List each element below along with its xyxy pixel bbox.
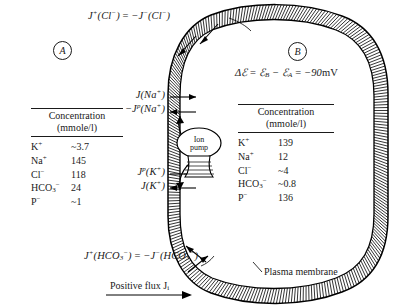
ion-species: Na+ (31, 155, 71, 167)
ion-species: HCO3− (31, 182, 71, 194)
compartment-a-label: A (59, 45, 65, 56)
bicarbonate-flux-equation: J+(HCO3−) = −J−(HCO3−) (84, 250, 198, 261)
ion-concentration-value: ~3.7 (71, 141, 89, 153)
compartment-b-label: B (294, 46, 300, 57)
ion-concentration-value: 139 (278, 137, 293, 149)
ion-species: K+ (31, 141, 71, 153)
ion-species: P− (238, 192, 278, 204)
ion-concentration-value: ~0.8 (278, 178, 296, 190)
table-b-header-line2: (mmole/l) (242, 118, 330, 130)
table-row: Na+145 (31, 155, 123, 167)
ion-concentration-value: 12 (278, 151, 288, 163)
ion-pump-label: Ion pump (183, 136, 215, 153)
table-b-header-line1: Concentration (242, 106, 330, 118)
table-row: Cl−118 (31, 169, 123, 181)
positive-flux-subscript: i (167, 284, 169, 292)
ion-concentration-value: ~4 (278, 165, 288, 177)
ion-species: Na+ (238, 151, 278, 163)
table-row: Cl−~4 (238, 165, 334, 177)
table-b-header: Concentration (mmole/l) (238, 104, 334, 133)
table-a-header-line1: Concentration (35, 110, 119, 122)
ion-species: Cl− (238, 165, 278, 177)
positive-flux-text: Positive flux J (110, 280, 167, 291)
sodium-passive-flux-label: J(Na+) (117, 89, 165, 100)
concentration-table-b: Concentration (mmole/l) K+139Na+12Cl−~4H… (238, 104, 334, 206)
ion-pump-label-line2: pump (190, 143, 208, 152)
table-row: P−~1 (31, 196, 123, 208)
membrane-potential-equation: Δℰ = ℰB − ℰA = −90mV (235, 66, 338, 78)
ion-species: Cl− (31, 169, 71, 181)
ion-concentration-value: 24 (71, 182, 81, 194)
chloride-flux-equation: J+(Cl−) = −J−(Cl−) (88, 10, 170, 21)
compartment-a-marker: A (53, 41, 72, 60)
concentration-table-a: Concentration (mmole/l) K+~3.7Na+145Cl−1… (31, 108, 123, 210)
table-row: HCO3−24 (31, 182, 123, 194)
ion-species: HCO3− (238, 178, 278, 190)
ion-concentration-value: 145 (71, 155, 86, 167)
table-b-rows: K+139Na+12Cl−~4HCO3−~0.8P−136 (238, 137, 334, 204)
table-row: HCO3−~0.8 (238, 178, 334, 190)
ion-species: K+ (238, 137, 278, 149)
ion-concentration-value: 118 (71, 169, 86, 181)
table-row: K+~3.7 (31, 141, 123, 153)
table-a-rows: K+~3.7Na+145Cl−118HCO3−24P−~1 (31, 141, 123, 208)
positive-flux-label: Positive flux Ji (110, 280, 169, 291)
table-row: Na+12 (238, 151, 334, 163)
ion-species: P− (31, 196, 71, 208)
table-a-header: Concentration (mmole/l) (31, 108, 123, 137)
table-a-header-line2: (mmole/l) (35, 122, 119, 134)
positive-flux-arrow (106, 291, 192, 299)
table-row: P−136 (238, 192, 334, 204)
plasma-membrane-label: Plasma membrane (264, 266, 338, 277)
ion-concentration-value: ~1 (71, 196, 81, 208)
compartment-b-marker: B (288, 42, 307, 61)
table-row: K+139 (238, 137, 334, 149)
ion-concentration-value: 136 (278, 192, 293, 204)
